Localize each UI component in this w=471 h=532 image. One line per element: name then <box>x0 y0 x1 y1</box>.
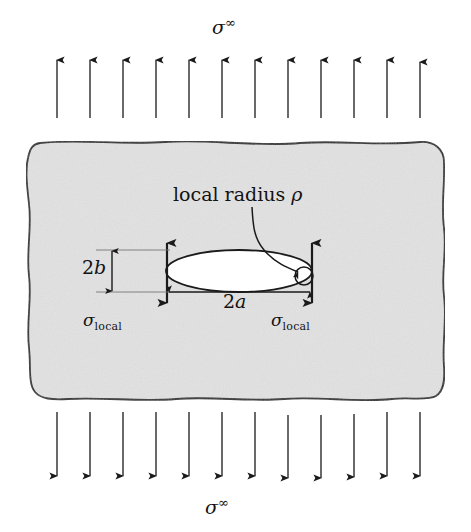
local-subscript: local <box>283 320 310 333</box>
major-axis-label: 2a <box>223 292 246 311</box>
minor-axis-label: 2b <box>82 258 106 277</box>
local-subscript: local <box>95 320 122 333</box>
local-stress-label-left: σlocal <box>83 312 122 332</box>
major-axis-number: 2 <box>223 290 235 312</box>
far-field-stress-label-top: σ∞ <box>212 16 236 37</box>
infinity-superscript: ∞ <box>225 15 236 30</box>
sigma-symbol: σ <box>271 310 283 330</box>
top-stress-arrows <box>57 60 420 118</box>
hole-ellipse <box>166 250 312 292</box>
local-radius-label: local radius ρ <box>173 185 302 204</box>
local-radius-text: local radius <box>173 183 291 205</box>
sigma-symbol: σ <box>212 16 225 38</box>
rho-symbol: ρ <box>291 183 302 205</box>
local-stress-label-right: σlocal <box>271 312 310 332</box>
far-field-stress-label-bottom: σ∞ <box>205 496 229 517</box>
sigma-symbol: σ <box>83 310 95 330</box>
bottom-stress-arrows <box>57 412 420 478</box>
major-axis-variable: a <box>235 290 246 312</box>
minor-axis-variable: b <box>94 256 106 278</box>
minor-axis-number: 2 <box>82 256 94 278</box>
stress-concentration-diagram: σ∞ σ∞ 2b 2a local radius ρ σlocal σlocal <box>0 0 471 532</box>
diagram-canvas <box>0 0 471 532</box>
infinity-superscript: ∞ <box>218 495 229 510</box>
elliptical-hole <box>166 250 312 292</box>
sigma-symbol: σ <box>205 496 218 518</box>
